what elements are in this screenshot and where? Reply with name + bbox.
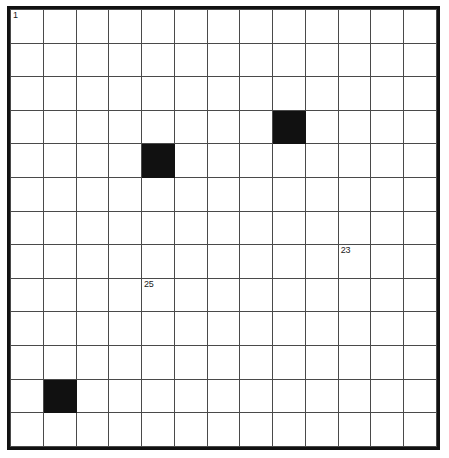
- grid-cell[interactable]: [338, 144, 371, 178]
- grid-cell[interactable]: [109, 346, 142, 380]
- grid-cell[interactable]: [371, 110, 404, 144]
- grid-cell[interactable]: 23: [338, 245, 371, 279]
- grid-cell[interactable]: [109, 110, 142, 144]
- grid-cell[interactable]: [76, 144, 109, 178]
- grid-cell[interactable]: [207, 77, 240, 111]
- grid-cell[interactable]: [11, 144, 44, 178]
- grid-cell[interactable]: [43, 43, 76, 77]
- grid-cell[interactable]: [305, 211, 338, 245]
- grid-cell[interactable]: [273, 245, 306, 279]
- grid-cell[interactable]: [207, 10, 240, 44]
- grid-cell[interactable]: [371, 346, 404, 380]
- grid-cell[interactable]: [43, 10, 76, 44]
- grid-cell[interactable]: [109, 245, 142, 279]
- grid-cell[interactable]: [371, 144, 404, 178]
- grid-cell[interactable]: [273, 379, 306, 413]
- grid-cell[interactable]: [76, 245, 109, 279]
- grid-cell[interactable]: [43, 413, 76, 447]
- grid-cell[interactable]: [305, 312, 338, 346]
- grid-cell[interactable]: [338, 278, 371, 312]
- grid-cell[interactable]: [142, 211, 175, 245]
- grid-cell[interactable]: [174, 77, 207, 111]
- grid-cell[interactable]: [174, 346, 207, 380]
- grid-cell[interactable]: [174, 144, 207, 178]
- grid-cell[interactable]: [305, 10, 338, 44]
- grid-cell[interactable]: [371, 413, 404, 447]
- grid-cell[interactable]: [273, 278, 306, 312]
- grid-cell[interactable]: [240, 413, 273, 447]
- grid-cell[interactable]: 1: [11, 10, 44, 44]
- grid-cell[interactable]: [404, 144, 437, 178]
- grid-cell[interactable]: [11, 413, 44, 447]
- grid-cell[interactable]: [273, 178, 306, 212]
- grid-cell[interactable]: [338, 43, 371, 77]
- grid-cell[interactable]: [273, 43, 306, 77]
- grid-cell[interactable]: [207, 278, 240, 312]
- grid-cell[interactable]: [43, 144, 76, 178]
- grid-cell[interactable]: [338, 346, 371, 380]
- grid-cell[interactable]: [11, 379, 44, 413]
- grid-cell[interactable]: [371, 10, 404, 44]
- grid-cell[interactable]: [207, 413, 240, 447]
- grid-cell[interactable]: [109, 211, 142, 245]
- grid-cell[interactable]: [240, 110, 273, 144]
- grid-cell[interactable]: [174, 110, 207, 144]
- grid-cell[interactable]: [305, 346, 338, 380]
- grid-cell[interactable]: [338, 379, 371, 413]
- grid-cell[interactable]: [76, 379, 109, 413]
- grid-cell[interactable]: [142, 346, 175, 380]
- grid-cell[interactable]: [404, 211, 437, 245]
- grid-cell[interactable]: [207, 346, 240, 380]
- grid-cell[interactable]: [371, 379, 404, 413]
- grid-cell[interactable]: [273, 346, 306, 380]
- grid-cell[interactable]: [142, 10, 175, 44]
- grid-cell[interactable]: [11, 346, 44, 380]
- grid-cell[interactable]: [11, 278, 44, 312]
- grid-cell[interactable]: [240, 312, 273, 346]
- grid-cell[interactable]: [338, 413, 371, 447]
- grid-cell[interactable]: [109, 312, 142, 346]
- grid-cell[interactable]: [142, 43, 175, 77]
- grid-cell[interactable]: [76, 278, 109, 312]
- grid-cell[interactable]: [174, 211, 207, 245]
- grid-cell[interactable]: [404, 77, 437, 111]
- grid-cell[interactable]: [43, 245, 76, 279]
- grid-cell[interactable]: [305, 77, 338, 111]
- grid-cell[interactable]: [305, 245, 338, 279]
- grid-cell[interactable]: [174, 278, 207, 312]
- grid-cell[interactable]: [76, 346, 109, 380]
- grid-cell[interactable]: [142, 379, 175, 413]
- grid-cell[interactable]: [109, 144, 142, 178]
- grid-cell[interactable]: [305, 278, 338, 312]
- grid-cell[interactable]: [207, 312, 240, 346]
- grid-cell[interactable]: [11, 77, 44, 111]
- grid-cell[interactable]: [305, 178, 338, 212]
- grid-cell[interactable]: [338, 211, 371, 245]
- grid-cell[interactable]: [338, 178, 371, 212]
- grid-cell[interactable]: [240, 211, 273, 245]
- grid-cell[interactable]: [109, 379, 142, 413]
- grid-cell[interactable]: [109, 178, 142, 212]
- grid-cell[interactable]: [142, 77, 175, 111]
- grid-cell[interactable]: [174, 379, 207, 413]
- grid-cell[interactable]: [11, 110, 44, 144]
- grid-cell[interactable]: [240, 10, 273, 44]
- grid-cell[interactable]: [11, 312, 44, 346]
- grid-cell[interactable]: [76, 413, 109, 447]
- grid-cell[interactable]: [305, 413, 338, 447]
- grid-cell[interactable]: [109, 10, 142, 44]
- grid-cell[interactable]: [305, 43, 338, 77]
- grid-cell[interactable]: [207, 110, 240, 144]
- grid-cell[interactable]: [305, 379, 338, 413]
- grid-cell[interactable]: [174, 43, 207, 77]
- grid-cell[interactable]: [404, 178, 437, 212]
- grid-cell[interactable]: [174, 413, 207, 447]
- grid-cell[interactable]: [142, 178, 175, 212]
- grid-cell[interactable]: [240, 77, 273, 111]
- grid-cell[interactable]: [240, 178, 273, 212]
- grid-cell[interactable]: [404, 43, 437, 77]
- grid-cell[interactable]: [371, 43, 404, 77]
- grid-cell[interactable]: [11, 211, 44, 245]
- grid-cell[interactable]: [240, 144, 273, 178]
- grid-cell[interactable]: [404, 110, 437, 144]
